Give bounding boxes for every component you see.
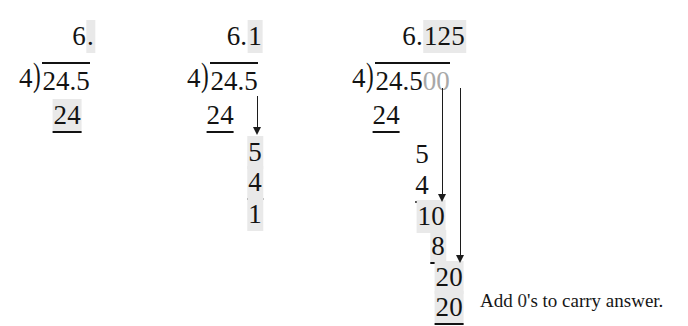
step-3-dividend-plain: 24.5 bbox=[376, 66, 423, 96]
step-2-work-value-1: 24 bbox=[207, 100, 234, 133]
step-2-quotient-plain: 6. bbox=[227, 21, 248, 51]
step-1-quotient: 6. bbox=[72, 21, 95, 51]
step-3-work-value-4: 10 bbox=[417, 200, 446, 233]
step-1-dividend-plain: 24.5 bbox=[43, 66, 90, 96]
step-3-work-row-5: 8 bbox=[430, 231, 446, 261]
step-1-division-bracket: 4)24.5 bbox=[19, 63, 90, 96]
step-2-quotient: 6.1 bbox=[227, 21, 263, 51]
step-3-work-value-7: 20 bbox=[435, 291, 464, 325]
step-1-quotient-plain: 6 bbox=[72, 21, 86, 51]
step-2-quotient-highlighted: 1 bbox=[247, 20, 263, 53]
step-3-quotient: 6.125 bbox=[402, 21, 466, 51]
step-2-dividend-plain: 24.5 bbox=[211, 66, 258, 96]
step-2-dividend: 24.5 bbox=[210, 62, 258, 96]
step-2-divisor: 4 bbox=[187, 63, 201, 93]
step-2-work-value-3: 4 bbox=[247, 166, 263, 200]
step-3-work-row-3: 4 bbox=[415, 170, 429, 200]
step-3-dividend-added-zeros: 00 bbox=[423, 66, 450, 96]
step-2-work-row-3: 4 bbox=[247, 167, 263, 197]
step-3-work-value-2: 5 bbox=[415, 139, 429, 169]
step-2-work-value-2: 5 bbox=[247, 136, 263, 169]
step-3-work-row-6: 20 bbox=[435, 262, 464, 292]
step-1-divisor: 4 bbox=[19, 63, 33, 93]
step-3-work-value-1: 24 bbox=[373, 100, 400, 133]
step-3-work-row-1: 24 bbox=[373, 100, 400, 130]
step-3-division-bracket: 4)24.500 bbox=[352, 63, 450, 96]
step-1-work-value: 24 bbox=[53, 99, 82, 133]
step-3-work-value-3: 4 bbox=[415, 170, 429, 203]
step-3-dividend: 24.500 bbox=[375, 62, 450, 96]
step-3-work-row-7: 20 bbox=[435, 292, 464, 322]
caption-zero-glyph: 0 bbox=[517, 290, 527, 311]
step-3-work-value-5: 8 bbox=[430, 230, 446, 264]
step-3-bracket-glyph: ) bbox=[366, 62, 374, 88]
step-3-divisor: 4 bbox=[352, 63, 366, 93]
step-2-work-value-4: 1 bbox=[247, 198, 263, 231]
step-2-work-row-2: 5 bbox=[247, 137, 263, 167]
step-2-division-bracket: 4)24.5 bbox=[187, 63, 258, 96]
step-2-bracket-glyph: ) bbox=[201, 62, 209, 88]
step-3-quotient-highlighted: 125 bbox=[423, 20, 466, 53]
step-3-work-row-4: 10 bbox=[417, 201, 446, 231]
step-1-dividend: 24.5 bbox=[42, 62, 90, 96]
step-3-work-value-6: 20 bbox=[435, 261, 464, 294]
step-3-quotient-plain: 6. bbox=[402, 21, 423, 51]
caption-add-zeros: Add 0's to carry answer. bbox=[480, 290, 663, 312]
step-1-bracket-glyph: ) bbox=[33, 62, 41, 88]
long-division-figure: 6. 4)24.5 24 6.1 4)24.5 24 5 4 1 6.125 4… bbox=[0, 0, 688, 326]
step-2-work-row-1: 24 bbox=[207, 100, 234, 130]
step-3-work-row-2: 5 bbox=[415, 139, 429, 169]
caption-before: Add bbox=[480, 290, 517, 311]
caption-after: 's to carry answer. bbox=[527, 290, 663, 311]
step-1-work-row-1: 24 bbox=[53, 100, 82, 130]
step-1-quotient-highlighted: . bbox=[86, 20, 95, 53]
step-2-work-row-4: 1 bbox=[247, 199, 263, 229]
